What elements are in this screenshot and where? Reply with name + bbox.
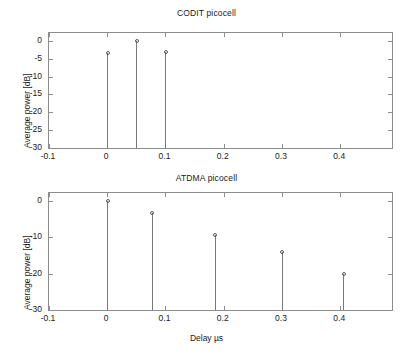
y-tick-right-codit xyxy=(388,94,392,95)
y-tick-label-codit: -10 xyxy=(0,71,42,81)
x-tick-top-atdma xyxy=(49,193,50,197)
y-tick-codit xyxy=(49,59,53,60)
x-tick-atdma xyxy=(340,306,341,310)
y-tick-atdma xyxy=(49,237,53,238)
x-tick-top-atdma xyxy=(282,193,283,197)
x-tick-codit xyxy=(49,144,50,148)
stem-marker-codit xyxy=(135,39,139,43)
y-tick-label-codit: -5 xyxy=(0,53,42,63)
stem-line-atdma xyxy=(343,274,344,310)
x-tick-codit xyxy=(340,144,341,148)
x-tick-label-codit: 0.4 xyxy=(333,151,345,161)
x-tick-label-atdma: 0.2 xyxy=(217,313,229,323)
y-tick-right-codit xyxy=(388,77,392,78)
x-tick-atdma xyxy=(165,306,166,310)
stem-line-codit xyxy=(107,53,108,148)
y-tick-right-codit xyxy=(388,148,392,149)
x-tick-label-codit: -0.1 xyxy=(41,151,56,161)
x-tick-top-codit xyxy=(165,33,166,37)
chart-title-atdma: ATDMA picocell xyxy=(0,173,413,183)
y-tick-label-codit: -25 xyxy=(0,124,42,134)
y-tick-right-codit xyxy=(388,130,392,131)
stem-marker-atdma xyxy=(280,250,284,254)
stem-line-atdma xyxy=(107,201,108,310)
y-tick-codit xyxy=(49,148,53,149)
x-tick-atdma xyxy=(49,306,50,310)
x-tick-label-atdma: -0.1 xyxy=(41,313,56,323)
y-tick-label-codit: -30 xyxy=(0,142,42,152)
x-tick-label-atdma: 0.4 xyxy=(333,313,345,323)
stem-marker-atdma xyxy=(213,233,217,237)
stem-marker-codit xyxy=(164,50,168,54)
x-tick-codit xyxy=(282,144,283,148)
plot-area-codit xyxy=(48,32,393,149)
stem-line-atdma xyxy=(282,252,283,310)
x-tick-top-atdma xyxy=(340,193,341,197)
y-tick-codit xyxy=(49,130,53,131)
stem-line-codit xyxy=(136,41,137,148)
stem-line-atdma xyxy=(215,235,216,310)
plot-area-atdma xyxy=(48,192,393,311)
y-tick-atdma xyxy=(49,310,53,311)
x-tick-top-codit xyxy=(282,33,283,37)
x-tick-label-codit: 0.1 xyxy=(159,151,171,161)
x-tick-label-atdma: 0.1 xyxy=(159,313,171,323)
y-tick-label-codit: -20 xyxy=(0,106,42,116)
chart-title-codit: CODIT picocell xyxy=(0,8,413,18)
x-tick-label-codit: 0.3 xyxy=(275,151,287,161)
x-tick-top-atdma xyxy=(107,193,108,197)
stem-line-atdma xyxy=(152,213,153,310)
y-tick-codit xyxy=(49,77,53,78)
x-tick-label-codit: 0 xyxy=(104,151,109,161)
x-tick-label-atdma: 0.3 xyxy=(275,313,287,323)
y-tick-label-atdma: -20 xyxy=(0,268,42,278)
y-tick-right-atdma xyxy=(388,201,392,202)
stem-line-codit xyxy=(165,52,166,148)
y-tick-right-codit xyxy=(388,41,392,42)
stem-marker-codit xyxy=(106,51,110,55)
x-tick-label-atdma: 0 xyxy=(104,313,109,323)
y-tick-label-atdma: -30 xyxy=(0,304,42,314)
y-tick-atdma xyxy=(49,274,53,275)
y-tick-label-codit: 0 xyxy=(0,35,42,45)
y-tick-right-atdma xyxy=(388,310,392,311)
y-tick-label-atdma: 0 xyxy=(0,195,42,205)
y-tick-right-atdma xyxy=(388,237,392,238)
y-tick-label-atdma: -10 xyxy=(0,231,42,241)
stem-marker-atdma xyxy=(150,211,154,215)
power-delay-profile-figure: CODIT picocell Average power [dB] ATDMA … xyxy=(0,0,413,354)
y-tick-right-atdma xyxy=(388,274,392,275)
x-tick-top-codit xyxy=(340,33,341,37)
x-tick-top-codit xyxy=(49,33,50,37)
y-tick-right-codit xyxy=(388,112,392,113)
y-tick-right-codit xyxy=(388,59,392,60)
stem-marker-atdma xyxy=(106,199,110,203)
x-tick-atdma xyxy=(224,306,225,310)
x-tick-top-atdma xyxy=(165,193,166,197)
x-tick-label-codit: 0.2 xyxy=(217,151,229,161)
y-tick-codit xyxy=(49,41,53,42)
y-tick-codit xyxy=(49,94,53,95)
x-axis-label-atdma: Delay µs xyxy=(0,333,413,343)
y-tick-atdma xyxy=(49,201,53,202)
x-tick-top-codit xyxy=(224,33,225,37)
y-tick-codit xyxy=(49,112,53,113)
x-tick-top-atdma xyxy=(224,193,225,197)
x-tick-top-codit xyxy=(107,33,108,37)
y-tick-label-codit: -15 xyxy=(0,88,42,98)
stem-marker-atdma xyxy=(342,272,346,276)
x-tick-codit xyxy=(224,144,225,148)
